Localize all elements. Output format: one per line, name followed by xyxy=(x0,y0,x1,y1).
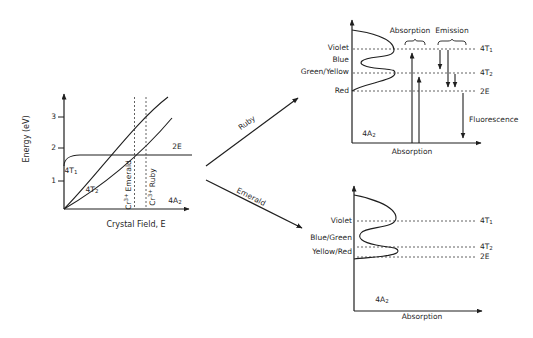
ruby-fluorescence-label: Fluorescence xyxy=(469,116,518,124)
emerald-4t1-label: 4T1 xyxy=(480,217,493,226)
cr-emerald-vertical-label: Cr3+Emerald xyxy=(124,160,132,210)
emerald-absorption-spectrum-curve xyxy=(354,195,398,259)
emerald-2e-label: 2E xyxy=(480,253,490,261)
emerald-connector-arrow xyxy=(206,180,302,228)
emerald-band-violet: Violet xyxy=(331,217,352,225)
crystal-field-figure: Energy (eV) 3 2 1 4T1 4T2 2E 4A2 Cr3+Eme… xyxy=(0,0,533,338)
emerald-4a2-label: 4A2 xyxy=(375,296,388,305)
cr-ruby-vertical-label: Cr3+Ruby xyxy=(148,168,156,205)
left-plot-4t1-label: 4T1 xyxy=(65,167,78,176)
ruby-band-green-yellow: Green/Yellow xyxy=(301,68,349,76)
ruby-4t1-label: 4T1 xyxy=(480,45,493,54)
left-plot-x-axis-title: Crystal Field, E xyxy=(106,221,165,229)
emerald-band-yellow-red: Yellow/Red xyxy=(312,248,352,256)
left-plot-y-axis-title: Energy (eV) xyxy=(23,115,31,162)
ruby-band-blue: Blue xyxy=(332,56,349,64)
ruby-band-violet: Violet xyxy=(328,44,349,52)
y-tick-2: 2 xyxy=(51,144,56,152)
ruby-emission-group-label: Emission xyxy=(435,27,468,35)
emerald-x-axis-title: Absorption xyxy=(402,313,443,321)
emerald-4t2-label: 4T2 xyxy=(480,243,493,252)
emerald-band-blue-green: Blue/Green xyxy=(310,234,352,242)
y-tick-1: 1 xyxy=(51,177,56,185)
absorption-brace xyxy=(405,39,425,45)
ruby-band-red: Red xyxy=(335,87,349,95)
ruby-2e-label: 2E xyxy=(480,88,490,96)
figure-linework xyxy=(0,0,533,338)
y-tick-3: 3 xyxy=(51,113,56,121)
left-plot-2e-label: 2E xyxy=(172,143,182,151)
left-plot-y-ticks xyxy=(58,117,64,181)
ruby-absorption-group-label: Absorption xyxy=(390,27,431,35)
ruby-4t2-label: 4T2 xyxy=(480,69,493,78)
ruby-absorption-spectrum-curve xyxy=(352,30,395,91)
left-plot-4a2-label: 4A2 xyxy=(168,197,181,206)
ruby-4a2-label: 4A2 xyxy=(362,130,375,139)
ruby-x-axis-title: Absorption xyxy=(392,148,433,156)
left-plot-4t2-label: 4T2 xyxy=(86,186,99,195)
ruby-connector-arrow xyxy=(206,98,298,166)
emission-brace xyxy=(438,39,466,45)
